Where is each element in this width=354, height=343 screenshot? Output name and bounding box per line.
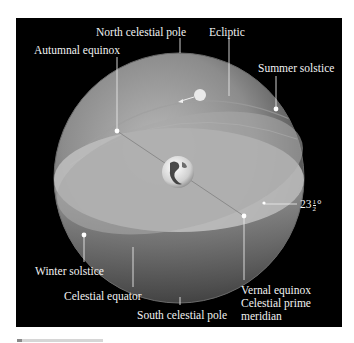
summer-solstice-marker bbox=[274, 107, 279, 112]
label-celestial-prime: Celestial prime bbox=[241, 297, 311, 309]
tilt-fraction: 12 bbox=[313, 199, 317, 212]
winter-solstice-marker bbox=[82, 233, 87, 238]
label-meridian: meridian bbox=[241, 310, 282, 322]
label-vernal-equinox: Vernal equinox bbox=[241, 284, 311, 296]
label-south-celestial-pole: South celestial pole bbox=[137, 309, 227, 321]
label-ecliptic: Ecliptic bbox=[209, 26, 245, 38]
label-north-celestial-pole: North celestial pole bbox=[96, 26, 186, 38]
autumnal-equinox-marker bbox=[115, 129, 120, 134]
label-tilt-angle: 2312° bbox=[300, 198, 322, 212]
caption-bar bbox=[17, 339, 103, 342]
tilt-whole: 23 bbox=[300, 198, 312, 210]
caption-bar-mark bbox=[17, 339, 22, 342]
label-winter-solstice: Winter solstice bbox=[35, 265, 104, 277]
tilt-marker bbox=[262, 201, 265, 204]
label-summer-solstice: Summer solstice bbox=[258, 62, 334, 74]
tilt-frac-den: 2 bbox=[313, 206, 317, 212]
vernal-equinox-marker bbox=[242, 214, 247, 219]
tilt-degree: ° bbox=[317, 198, 322, 210]
sun-icon bbox=[194, 89, 206, 101]
earth-icon bbox=[162, 156, 194, 188]
label-autumnal-equinox: Autumnal equinox bbox=[34, 44, 120, 56]
label-celestial-equator: Celestial equator bbox=[64, 290, 142, 302]
